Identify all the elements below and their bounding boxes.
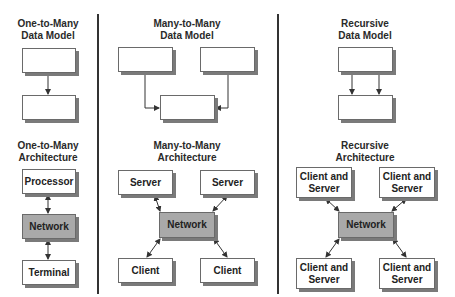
data-entity-box bbox=[338, 47, 393, 72]
network-node: Network bbox=[159, 212, 215, 238]
data-entity-box bbox=[338, 95, 393, 120]
data-entity-box bbox=[200, 47, 255, 72]
one-to-many-data-model-title: One-to-Many Data Model bbox=[0, 18, 108, 42]
title-line: Architecture bbox=[0, 152, 108, 164]
title-line: Recursive bbox=[305, 140, 425, 152]
data-entity-box bbox=[160, 95, 215, 120]
data-entity-box bbox=[22, 48, 76, 73]
client-node: Client bbox=[200, 258, 255, 283]
title-line: One-to-Many bbox=[0, 18, 108, 30]
many-to-many-architecture-title: Many-to-Many Architecture bbox=[127, 140, 247, 164]
title-line: Architecture bbox=[127, 152, 247, 164]
one-to-many-architecture-title: One-to-Many Architecture bbox=[0, 140, 108, 164]
recursive-data-model-title: Recursive Data Model bbox=[305, 18, 425, 42]
title-line: Many-to-Many bbox=[127, 18, 247, 30]
server-node: Server bbox=[118, 170, 173, 195]
processor-node: Processor bbox=[22, 169, 76, 194]
server-node: Server bbox=[200, 170, 255, 195]
terminal-node: Terminal bbox=[22, 260, 76, 285]
title-line: Data Model bbox=[0, 30, 108, 42]
recursive-architecture-title: Recursive Architecture bbox=[305, 140, 425, 164]
data-entity-box bbox=[22, 95, 76, 120]
title-line: Data Model bbox=[305, 30, 425, 42]
network-node: Network bbox=[22, 214, 76, 239]
title-line: Recursive bbox=[305, 18, 425, 30]
client-and-server-node: Client and Server bbox=[296, 167, 352, 198]
data-entity-box bbox=[118, 47, 173, 72]
client-and-server-node: Client and Server bbox=[379, 258, 435, 289]
client-node: Client bbox=[118, 258, 173, 283]
title-line: Data Model bbox=[127, 30, 247, 42]
client-and-server-node: Client and Server bbox=[296, 258, 352, 289]
many-to-many-data-model-title: Many-to-Many Data Model bbox=[127, 18, 247, 42]
title-line: Many-to-Many bbox=[127, 140, 247, 152]
title-line: One-to-Many bbox=[0, 140, 108, 152]
network-node: Network bbox=[338, 212, 394, 238]
title-line: Architecture bbox=[305, 152, 425, 164]
client-and-server-node: Client and Server bbox=[379, 167, 435, 198]
